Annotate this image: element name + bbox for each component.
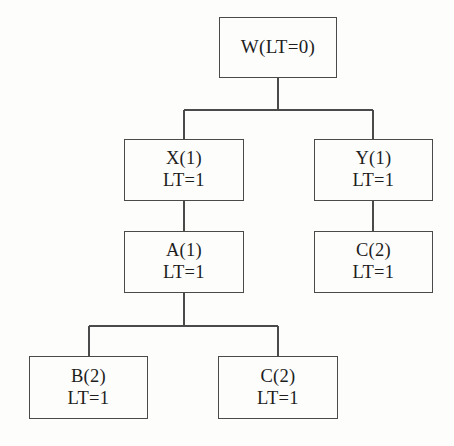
node-y-lt: LT=1 — [353, 170, 395, 192]
node-c-right-label: C(2) — [356, 240, 391, 262]
node-c-bottom-lt: LT=1 — [257, 388, 299, 410]
node-w[interactable]: W(LT=0) — [219, 17, 337, 78]
node-b-label: B(2) — [71, 366, 106, 388]
node-a-label: A(1) — [166, 240, 202, 262]
node-b[interactable]: B(2) LT=1 — [29, 356, 148, 419]
node-c-right-lt: LT=1 — [353, 262, 395, 284]
node-x-lt: LT=1 — [163, 170, 205, 192]
node-c-bottom[interactable]: C(2) LT=1 — [218, 356, 338, 419]
node-y[interactable]: Y(1) LT=1 — [314, 139, 433, 201]
node-x[interactable]: X(1) LT=1 — [124, 139, 244, 201]
node-b-lt: LT=1 — [68, 388, 110, 410]
tree-diagram-canvas: W(LT=0) X(1) LT=1 Y(1) LT=1 A(1) LT=1 C(… — [0, 0, 454, 446]
node-y-label: Y(1) — [355, 148, 391, 170]
node-x-label: X(1) — [166, 148, 202, 170]
node-c-bottom-label: C(2) — [260, 366, 295, 388]
node-w-label: W(LT=0) — [241, 36, 315, 58]
node-a-lt: LT=1 — [163, 262, 205, 284]
node-c-right[interactable]: C(2) LT=1 — [314, 231, 433, 293]
node-a[interactable]: A(1) LT=1 — [124, 231, 244, 293]
